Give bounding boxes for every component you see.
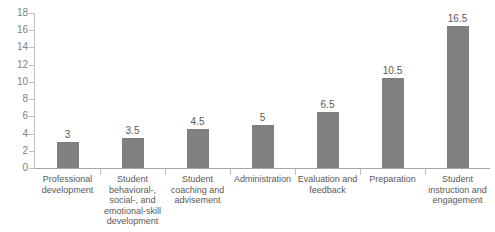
x-axis-tick-mark bbox=[295, 169, 296, 175]
x-axis-categories: Professional developmentStudent behavior… bbox=[35, 169, 490, 232]
bar[interactable] bbox=[187, 129, 209, 168]
x-axis-category-label: Evaluation and feedback bbox=[295, 169, 360, 195]
bar-group: 3 bbox=[35, 13, 100, 168]
bar[interactable] bbox=[447, 26, 469, 168]
bar-value-label: 5 bbox=[260, 112, 266, 123]
y-axis-tick-label: 12 bbox=[0, 60, 28, 70]
x-axis-category-label: Student coaching and advisement bbox=[165, 169, 230, 206]
y-axis-tick-label: 14 bbox=[0, 42, 28, 52]
y-axis-tick-label: 16 bbox=[0, 25, 28, 35]
bar[interactable] bbox=[382, 78, 404, 168]
y-axis-tick-label: 18 bbox=[0, 8, 28, 18]
plot-area: 33.54.556.510.516.5 bbox=[35, 13, 490, 168]
y-axis-tick-label: 10 bbox=[0, 77, 28, 87]
y-axis-tick-label: 4 bbox=[0, 129, 28, 139]
bar-value-label: 16.5 bbox=[448, 13, 467, 24]
bar-group: 4.5 bbox=[165, 13, 230, 168]
x-axis-tick-mark bbox=[360, 169, 361, 175]
x-axis-category: Evaluation and feedback bbox=[295, 169, 360, 232]
y-axis-tick-label: 0 bbox=[0, 163, 28, 173]
bar-value-label: 6.5 bbox=[321, 99, 335, 110]
x-axis-category-label: Professional development bbox=[35, 169, 100, 195]
x-axis-category: Preparation bbox=[360, 169, 425, 232]
x-axis-category-label: Student behavioral-, social-, and emotio… bbox=[100, 169, 165, 227]
bar-value-label: 3.5 bbox=[126, 125, 140, 136]
bar-group: 10.5 bbox=[360, 13, 425, 168]
x-axis-tick-mark bbox=[230, 169, 231, 175]
bar[interactable] bbox=[122, 138, 144, 168]
x-axis-tick-mark bbox=[165, 169, 166, 175]
bar[interactable] bbox=[252, 125, 274, 168]
x-axis-category: Student behavioral-, social-, and emotio… bbox=[100, 169, 165, 232]
y-axis-tick-label: 2 bbox=[0, 146, 28, 156]
x-axis-category: Student coaching and advisement bbox=[165, 169, 230, 232]
x-axis-category-label: Preparation bbox=[360, 169, 425, 185]
x-axis-category: Administration bbox=[230, 169, 295, 232]
bar[interactable] bbox=[317, 112, 339, 168]
y-axis: 181614121086420 bbox=[0, 0, 28, 232]
bar[interactable] bbox=[57, 142, 79, 168]
bar-value-label: 3 bbox=[65, 129, 71, 140]
bar-value-label: 10.5 bbox=[383, 65, 402, 76]
x-axis-category-label: Administration bbox=[230, 169, 295, 185]
x-axis-category: Student instruction and engagement bbox=[425, 169, 490, 232]
bar-group: 3.5 bbox=[100, 13, 165, 168]
x-axis-tick-mark bbox=[425, 169, 426, 175]
bar-group: 16.5 bbox=[425, 13, 490, 168]
x-axis-category: Professional development bbox=[35, 169, 100, 232]
bar-value-label: 4.5 bbox=[191, 116, 205, 127]
bar-group: 5 bbox=[230, 13, 295, 168]
x-axis-tick-mark bbox=[100, 169, 101, 175]
bar-chart: 181614121086420 33.54.556.510.516.5 Prof… bbox=[0, 0, 495, 232]
x-axis-category-label: Student instruction and engagement bbox=[425, 169, 490, 206]
bar-group: 6.5 bbox=[295, 13, 360, 168]
y-axis-tick-label: 6 bbox=[0, 111, 28, 121]
y-axis-tick-label: 8 bbox=[0, 94, 28, 104]
